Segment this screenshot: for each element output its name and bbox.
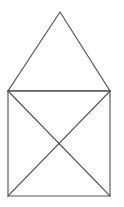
house-shape-figure — [0, 0, 124, 207]
